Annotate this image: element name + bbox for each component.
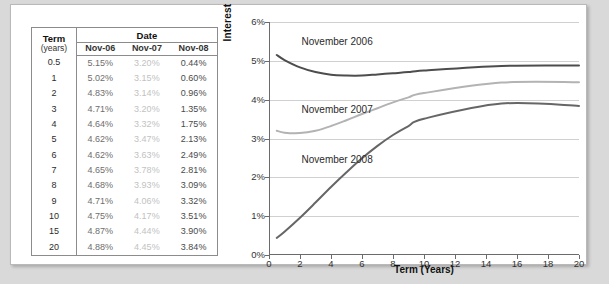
cell-rate: 3.90% xyxy=(170,224,217,239)
chart-series-lines xyxy=(269,22,579,255)
table-body: 0.55.15%3.20%0.44%15.02%3.15%0.60%24.83%… xyxy=(32,55,217,255)
cell-rate: 4.06% xyxy=(124,194,171,209)
cell-rate: 4.65% xyxy=(76,163,123,178)
cell-rate: 4.68% xyxy=(76,178,123,193)
cell-term: 4 xyxy=(32,117,76,132)
header-term: Term (years) xyxy=(32,28,76,55)
chart-plot-area: 02468101214161820 November 2006November … xyxy=(269,22,579,255)
cell-rate: 0.44% xyxy=(170,55,217,71)
rates-table: Term (years) Date Nov-06 Nov-07 Nov-08 0… xyxy=(32,28,217,255)
y-tick-label: 2% xyxy=(239,171,265,182)
cell-rate: 4.45% xyxy=(124,239,171,255)
table-row: 84.68%3.93%3.09% xyxy=(32,178,217,193)
y-tick-label: 6% xyxy=(239,16,265,27)
cell-rate: 0.60% xyxy=(170,71,217,86)
table-row: 15.02%3.15%0.60% xyxy=(32,71,217,86)
interest-rate-table: Term (years) Date Nov-06 Nov-07 Nov-08 0… xyxy=(31,27,218,256)
table-header-row-1: Term (years) Date xyxy=(32,28,217,42)
table-row: 54.62%3.47%2.13% xyxy=(32,132,217,147)
header-term-units: (years) xyxy=(32,44,76,53)
cell-rate: 3.20% xyxy=(124,102,171,117)
cell-rate: 2.49% xyxy=(170,148,217,163)
x-tick-mark xyxy=(517,255,518,259)
table-row: 154.87%4.44%3.90% xyxy=(32,224,217,239)
cell-rate: 4.71% xyxy=(76,194,123,209)
header-date: Date xyxy=(76,28,217,42)
cell-rate: 3.20% xyxy=(124,55,171,71)
header-col-nov06: Nov-06 xyxy=(76,42,123,55)
cell-rate: 3.63% xyxy=(124,148,171,163)
cell-rate: 1.75% xyxy=(170,117,217,132)
cell-term: 10 xyxy=(32,209,76,224)
cell-rate: 4.71% xyxy=(76,102,123,117)
cell-rate: 4.62% xyxy=(76,148,123,163)
cell-rate: 3.09% xyxy=(170,178,217,193)
cell-rate: 3.47% xyxy=(124,132,171,147)
table-row: 64.62%3.63%2.49% xyxy=(32,148,217,163)
screenshot-root: Term (years) Date Nov-06 Nov-07 Nov-08 0… xyxy=(0,0,609,284)
table-row: 44.64%3.32%1.75% xyxy=(32,117,217,132)
x-tick-mark xyxy=(486,255,487,259)
table-row: 104.75%4.17%3.51% xyxy=(32,209,217,224)
cell-rate: 4.75% xyxy=(76,209,123,224)
table-row: 74.65%3.78%2.81% xyxy=(32,163,217,178)
yield-curve-chart: Interest Rate (EAR) 0%1%2%3%4%5%6% 02468… xyxy=(226,12,586,262)
cell-term: 2 xyxy=(32,86,76,101)
cell-rate: 1.35% xyxy=(170,102,217,117)
table-row: 0.55.15%3.20%0.44% xyxy=(32,55,217,71)
x-tick-mark xyxy=(269,255,270,259)
cell-rate: 3.78% xyxy=(124,163,171,178)
chart-y-axis-label: Interest Rate (EAR) xyxy=(222,0,233,64)
cell-rate: 4.83% xyxy=(76,86,123,101)
x-tick-mark xyxy=(455,255,456,259)
header-col-nov08: Nov-08 xyxy=(170,42,217,55)
chart-x-axis-label: Term (Years) xyxy=(269,264,579,275)
cell-rate: 3.93% xyxy=(124,178,171,193)
table-head: Term (years) Date Nov-06 Nov-07 Nov-08 xyxy=(32,28,217,55)
cell-rate: 4.62% xyxy=(76,132,123,147)
series-line xyxy=(277,55,579,76)
x-tick-mark xyxy=(393,255,394,259)
cell-term: 0.5 xyxy=(32,55,76,71)
series-label: November 2008 xyxy=(302,154,373,165)
x-tick-mark xyxy=(300,255,301,259)
x-tick-mark xyxy=(579,255,580,259)
cell-rate: 3.84% xyxy=(170,239,217,255)
table-row: 94.71%4.06%3.32% xyxy=(32,194,217,209)
cell-rate: 5.15% xyxy=(76,55,123,71)
table-row: 204.88%4.45%3.84% xyxy=(32,239,217,255)
cell-term: 9 xyxy=(32,194,76,209)
cell-rate: 3.32% xyxy=(170,194,217,209)
cell-rate: 4.88% xyxy=(76,239,123,255)
series-label: November 2006 xyxy=(302,36,373,47)
y-tick-label: 1% xyxy=(239,210,265,221)
x-tick-mark xyxy=(362,255,363,259)
cell-rate: 4.87% xyxy=(76,224,123,239)
cell-rate: 4.17% xyxy=(124,209,171,224)
cell-term: 5 xyxy=(32,132,76,147)
cell-term: 3 xyxy=(32,102,76,117)
chart-y-ticks: 0%1%2%3%4%5%6% xyxy=(239,12,265,262)
cell-rate: 3.15% xyxy=(124,71,171,86)
cell-rate: 2.13% xyxy=(170,132,217,147)
cell-term: 7 xyxy=(32,163,76,178)
series-label: November 2007 xyxy=(302,104,373,115)
cell-rate: 3.51% xyxy=(170,209,217,224)
cell-rate: 0.96% xyxy=(170,86,217,101)
x-tick-mark xyxy=(331,255,332,259)
table-row: 34.71%3.20%1.35% xyxy=(32,102,217,117)
cell-term: 8 xyxy=(32,178,76,193)
cell-term: 1 xyxy=(32,71,76,86)
x-tick-mark xyxy=(424,255,425,259)
header-col-nov07: Nov-07 xyxy=(124,42,171,55)
header-term-label: Term xyxy=(43,33,66,44)
cell-rate: 4.64% xyxy=(76,117,123,132)
table-row: 24.83%3.14%0.96% xyxy=(32,86,217,101)
y-tick-label: 3% xyxy=(239,133,265,144)
cell-rate: 5.02% xyxy=(76,71,123,86)
cell-term: 20 xyxy=(32,239,76,255)
x-tick-mark xyxy=(548,255,549,259)
y-tick-label: 5% xyxy=(239,55,265,66)
cell-rate: 2.81% xyxy=(170,163,217,178)
series-line xyxy=(277,103,579,238)
